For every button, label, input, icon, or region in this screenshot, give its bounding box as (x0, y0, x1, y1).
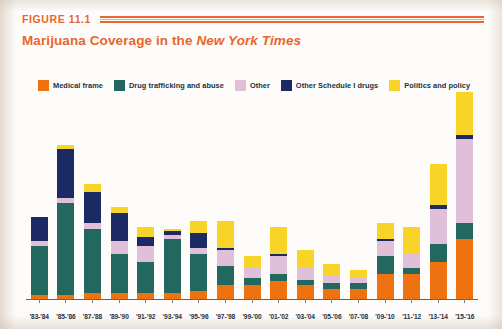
bar-segment (377, 256, 394, 274)
legend-swatch-politics_and_policy (389, 80, 400, 91)
bar-segment (323, 276, 340, 284)
bar-segment (217, 250, 234, 266)
bar-segment (217, 266, 234, 286)
bar-segment (244, 278, 261, 286)
legend-label-other: Other (250, 81, 270, 90)
bar-segment (31, 246, 48, 295)
x-axis-tick-label: '01-'02 (269, 313, 288, 320)
bar-segment (190, 233, 207, 249)
bar-segment (456, 92, 473, 135)
x-tick (119, 299, 120, 303)
bar-group (26, 104, 478, 299)
bar-slot (132, 104, 159, 299)
bar-segment (111, 241, 128, 255)
stacked-bar (111, 207, 128, 299)
chart-plot-area (26, 104, 478, 299)
legend-swatch-other_schedule_i (281, 80, 292, 91)
bar-segment (323, 264, 340, 276)
x-tick (225, 299, 226, 303)
bar-segment (190, 254, 207, 291)
bar-segment (456, 139, 473, 223)
x-tick (358, 299, 359, 303)
bar-segment (377, 274, 394, 299)
x-tick-cell (79, 299, 106, 303)
x-label-cell: '87-'88 (79, 305, 106, 323)
stacked-bar (430, 164, 447, 299)
x-tick (411, 299, 412, 303)
bar-segment (31, 217, 48, 240)
bar-segment (323, 289, 340, 299)
x-tick-cell (319, 299, 346, 303)
bar-slot (319, 104, 346, 299)
legend-item-drug_trafficking: Drug trafficking and abuse (114, 80, 224, 91)
bar-segment (270, 227, 287, 254)
stacked-bar (84, 184, 101, 299)
x-label-cell: '09-'10 (372, 305, 399, 323)
x-tick-cell (292, 299, 319, 303)
x-tick (39, 299, 40, 303)
bar-segment (111, 254, 128, 293)
x-tick (278, 299, 279, 303)
legend-item-other_schedule_i: Other Schedule I drugs (281, 80, 378, 91)
x-label-cell: '97-'98 (212, 305, 239, 323)
bar-segment (84, 184, 101, 192)
figure-header: FIGURE 11.1 (22, 13, 484, 25)
bar-segment (137, 227, 154, 237)
x-axis-tick-label: '93-'94 (163, 313, 182, 320)
legend-item-medical_frame: Medical frame (38, 80, 103, 91)
x-axis-tick-label: '95-'96 (189, 313, 208, 320)
legend-label-drug_trafficking: Drug trafficking and abuse (129, 81, 224, 90)
bar-slot (292, 104, 319, 299)
figure-number: FIGURE 11.1 (22, 13, 91, 25)
stacked-bar (57, 145, 74, 299)
x-label-cell: '83-'84 (26, 305, 53, 323)
bar-slot (239, 104, 266, 299)
legend-label-other_schedule_i: Other Schedule I drugs (296, 81, 378, 90)
x-tick-cell (398, 299, 425, 303)
stacked-bar (377, 223, 394, 299)
bar-segment (244, 268, 261, 278)
stacked-bar (217, 221, 234, 299)
bar-segment (430, 209, 447, 244)
bar-slot (212, 104, 239, 299)
header-rule-bottom (100, 21, 484, 23)
x-axis-tick-label: '89-'90 (109, 313, 128, 320)
x-label-cell: '13-'14 (425, 305, 452, 323)
x-tick-cell (132, 299, 159, 303)
bar-segment (111, 213, 128, 240)
x-tick-cell (186, 299, 213, 303)
x-label-cell: '05-'06 (319, 305, 346, 323)
x-tick-cell (53, 299, 80, 303)
bar-slot (398, 104, 425, 299)
x-label-cell: '91-'92 (132, 305, 159, 323)
x-axis-tick-label: '85-'86 (56, 313, 75, 320)
bar-segment (350, 270, 367, 278)
x-tick (65, 299, 66, 303)
header-rule-group (100, 15, 484, 23)
stacked-bar (403, 227, 420, 299)
x-tick (305, 299, 306, 303)
bar-slot (53, 104, 80, 299)
x-tick (464, 299, 465, 303)
bar-segment (430, 262, 447, 299)
header-rule-middle (100, 19, 484, 20)
bar-segment (84, 229, 101, 293)
x-tick (198, 299, 199, 303)
bar-segment (270, 281, 287, 299)
x-axis-tick-label: '99-'00 (242, 313, 261, 320)
stacked-bar (190, 221, 207, 299)
x-axis-tick-label: '91-'92 (136, 313, 155, 320)
bar-segment (377, 241, 394, 257)
bar-segment (190, 221, 207, 233)
x-tick-cell (372, 299, 399, 303)
x-tick (385, 299, 386, 303)
bar-segment (403, 274, 420, 299)
x-tick-cell (159, 299, 186, 303)
bar-slot (452, 104, 479, 299)
bar-slot (79, 104, 106, 299)
bar-slot (186, 104, 213, 299)
figure-title-italic: New York Times (196, 33, 301, 48)
x-axis-tick-label: '13-'14 (429, 313, 448, 320)
figure-content: FIGURE 11.1 Marijuana Coverage in the Ne… (0, 0, 502, 329)
figure-page: FIGURE 11.1 Marijuana Coverage in the Ne… (0, 0, 502, 329)
